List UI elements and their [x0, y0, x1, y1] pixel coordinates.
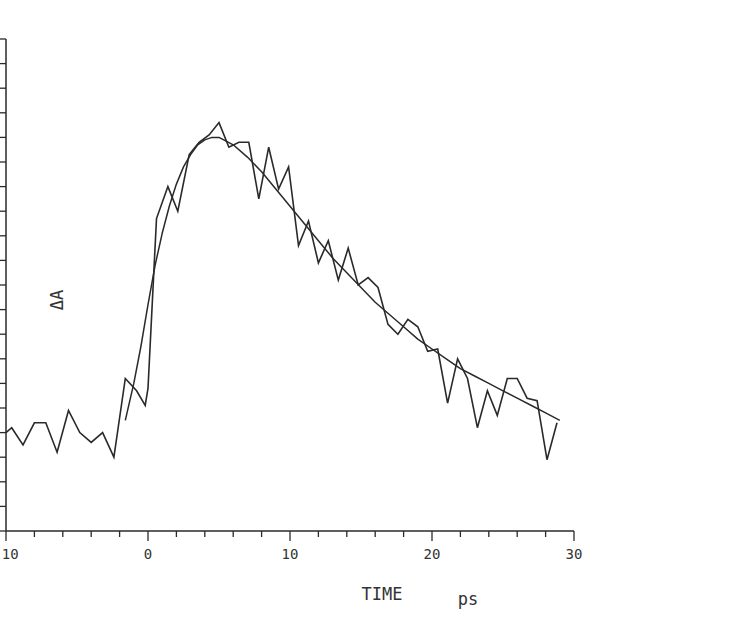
chart: -0.050.000.050.100.15 -100102030 ΔA TIME…	[0, 0, 749, 632]
x-tick-label: 0	[144, 546, 152, 562]
x-axis-label: TIME	[362, 584, 403, 604]
x-tick-label: 10	[282, 546, 299, 562]
x-tick-label: 20	[424, 546, 441, 562]
x-tick-label: -10	[0, 546, 19, 562]
y-axis-label: ΔA	[47, 290, 67, 310]
y-axis	[0, 39, 6, 531]
x-axis-unit-label: ps	[458, 589, 478, 609]
x-tick-label: 30	[566, 546, 583, 562]
x-tick-labels: -100102030	[0, 546, 582, 562]
fit-curve-line	[125, 137, 560, 420]
x-axis	[6, 531, 574, 541]
measured-data-line	[6, 123, 557, 460]
